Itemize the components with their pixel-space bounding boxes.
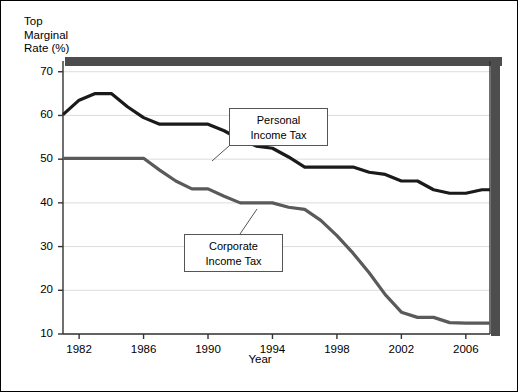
figure-frame: Top Marginal Rate (%) 70605040302010 198… xyxy=(0,0,518,392)
y-tick-label: 50 xyxy=(27,152,53,164)
y-tick-label: 30 xyxy=(27,240,53,252)
annotation-corporate-line-2: Income Tax xyxy=(185,254,282,269)
annotation-leader-line xyxy=(240,209,257,234)
y-tick-label: 60 xyxy=(27,108,53,120)
annotation-personal-line-1: Personal xyxy=(230,113,327,128)
shadow-right xyxy=(491,57,500,336)
annotation-personal-line-2: Income Tax xyxy=(230,128,327,143)
x-axis-title: Year xyxy=(1,353,518,367)
annotation-corporate-line-1: Corporate xyxy=(185,239,282,254)
axis-lines xyxy=(63,61,490,334)
y-tick-label: 10 xyxy=(27,327,53,339)
y-tick-label: 40 xyxy=(27,196,53,208)
plot-shadow xyxy=(65,57,502,336)
y-tick-label: 20 xyxy=(27,283,53,295)
line-chart-plot xyxy=(1,1,518,392)
annotation-personal-income-tax: Personal Income Tax xyxy=(229,108,328,146)
y-tick-label: 70 xyxy=(27,65,53,77)
shadow-top xyxy=(65,57,502,66)
chart-stage: Top Marginal Rate (%) 70605040302010 198… xyxy=(1,1,518,392)
annotation-corporate-income-tax: Corporate Income Tax xyxy=(184,234,283,272)
